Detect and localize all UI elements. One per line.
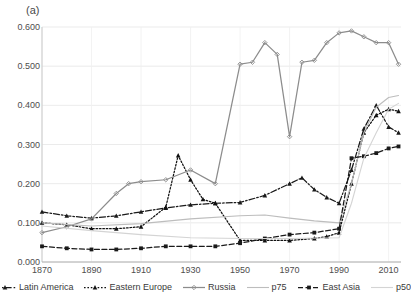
x-axis-tick-label: 2010 [379, 265, 399, 275]
x-axis-tick-label: 1950 [230, 265, 250, 275]
x-axis-tick-label: 1990 [329, 265, 349, 275]
x-axis-tick-label: 1870 [32, 265, 52, 275]
legend-item-label: East Asia [323, 283, 361, 292]
legend-key-icon [371, 283, 393, 292]
legend-item-label: Eastern Europe [109, 283, 172, 292]
legend-item-label: p75 [272, 283, 287, 292]
legend-item-latin-america[interactable]: Latin America [0, 283, 73, 292]
x-axis-tick-label: 1970 [280, 265, 300, 275]
legend-item-label: p50 [396, 283, 411, 292]
legend-item-russia[interactable]: Russia [183, 283, 236, 292]
legend-item-label: Latin America [19, 283, 74, 292]
legend-key-icon [247, 283, 269, 292]
series-eastern-europe [40, 107, 401, 243]
x-axis-tick-label: 1910 [131, 265, 151, 275]
legend-key-icon [0, 283, 16, 292]
legend-item-p75[interactable]: p75 [247, 283, 287, 292]
legend-item-eastern-europe[interactable]: Eastern Europe [84, 283, 172, 292]
series-p50 [42, 103, 399, 238]
legend-key-icon [183, 283, 205, 292]
legend-item-label: Russia [208, 283, 236, 292]
legend-key-icon [298, 283, 320, 292]
x-axis-tick-label: 1890 [82, 265, 102, 275]
x-axis-tick-label: 1930 [181, 265, 201, 275]
legend-item-p50[interactable]: p50 [371, 283, 411, 292]
legend-item-east-asia[interactable]: East Asia [298, 283, 361, 292]
legend-key-icon [84, 283, 106, 292]
chart-legend: Latin AmericaEastern EuropeRussiap75East… [0, 278, 405, 296]
